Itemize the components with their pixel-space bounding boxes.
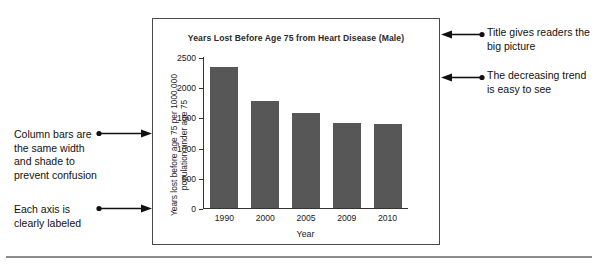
arrow-each-axis: [96, 203, 152, 214]
y-tick-mark: [199, 209, 203, 210]
bar-slot: [367, 57, 408, 208]
bar-2009: [333, 123, 361, 208]
y-tick-label: 2000: [177, 83, 196, 93]
x-tick-label-2010: 2010: [378, 213, 397, 223]
x-axis-title: Year: [203, 229, 408, 239]
y-tick-label: 1000: [177, 144, 196, 154]
annotation-title-gives-readers: Title gives readers the big picture: [487, 26, 595, 53]
y-tick-mark: [199, 118, 203, 119]
chart-title: Years Lost Before Age 75 from Heart Dise…: [153, 33, 439, 43]
bar-1990: [210, 67, 238, 208]
bar-slot: [204, 57, 245, 208]
bar-slot: [286, 57, 327, 208]
x-tick-label-1990: 1990: [215, 213, 234, 223]
bar-series: [204, 57, 408, 208]
y-tick-label: 0: [191, 204, 196, 214]
arrow-column-bars: [96, 128, 152, 139]
y-tick-mark: [199, 149, 203, 150]
bar-2005: [292, 113, 320, 208]
arrow-trend-note: [441, 72, 485, 83]
x-tick-label-2005: 2005: [296, 213, 315, 223]
y-tick-mark: [199, 88, 203, 89]
y-tick-label: 2500: [177, 53, 196, 63]
annotation-column-bars: Column bars are the same width and shade…: [14, 128, 102, 182]
bar-2000: [251, 101, 279, 208]
annotation-each-axis: Each axis is clearly labeled: [14, 203, 102, 230]
bar-slot: [326, 57, 367, 208]
y-tick-mark: [199, 58, 203, 59]
plot-area: 05001000150020002500 1990200020052009201…: [203, 57, 408, 209]
annotation-decreasing-trend: The decreasing trend is easy to see: [487, 69, 595, 96]
y-tick-label: 500: [182, 174, 196, 184]
x-tick-label-2009: 2009: [337, 213, 356, 223]
chart-frame: Years Lost Before Age 75 from Heart Dise…: [152, 18, 440, 245]
y-tick-label: 1500: [177, 113, 196, 123]
bar-2010: [374, 124, 402, 208]
y-tick-mark: [199, 179, 203, 180]
x-axis-line: [203, 208, 408, 209]
x-tick-label-2000: 2000: [256, 213, 275, 223]
bar-slot: [245, 57, 286, 208]
arrow-title-note: [441, 29, 485, 40]
bottom-divider: [6, 256, 592, 258]
